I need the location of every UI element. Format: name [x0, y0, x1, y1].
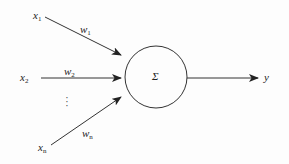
- neuron-diagram: x1 x2 xn w1 w2 wn ··· Σ y: [0, 0, 289, 164]
- input-label-xn: xn: [38, 142, 46, 155]
- ellipsis-vdots: ···: [65, 96, 69, 108]
- output-label-y: y: [264, 72, 269, 83]
- input-label-x2: x2: [20, 72, 28, 85]
- diagram-lines: [0, 0, 289, 164]
- input-label-x1: x1: [33, 10, 41, 23]
- weight-label-w2: w2: [64, 66, 75, 79]
- sigma-symbol: Σ: [152, 71, 159, 82]
- weight-label-w1: w1: [80, 24, 91, 37]
- weight-label-wn: wn: [82, 128, 93, 141]
